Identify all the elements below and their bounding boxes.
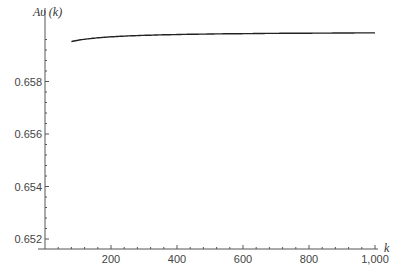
y-tick-label: 0.654 [14, 181, 42, 193]
x-tick-label: 200 [102, 253, 120, 265]
x-tick-label: 800 [300, 253, 318, 265]
line-chart: 2004006008001,0000.6520.6540.6560.658 Aυ… [0, 0, 410, 279]
x-tick-label: 600 [234, 253, 252, 265]
ticks: 2004006008001,0000.6520.6540.6560.658 [14, 40, 388, 266]
y-axis-label: Aυ (k) [32, 5, 62, 19]
y-tick-label: 0.652 [14, 233, 42, 245]
data-series-line [71, 33, 375, 42]
y-tick-label: 0.656 [14, 128, 42, 140]
x-axis-label: k [384, 241, 390, 255]
x-tick-label: 400 [168, 253, 186, 265]
axes [38, 8, 378, 249]
y-tick-label: 0.658 [14, 76, 42, 88]
